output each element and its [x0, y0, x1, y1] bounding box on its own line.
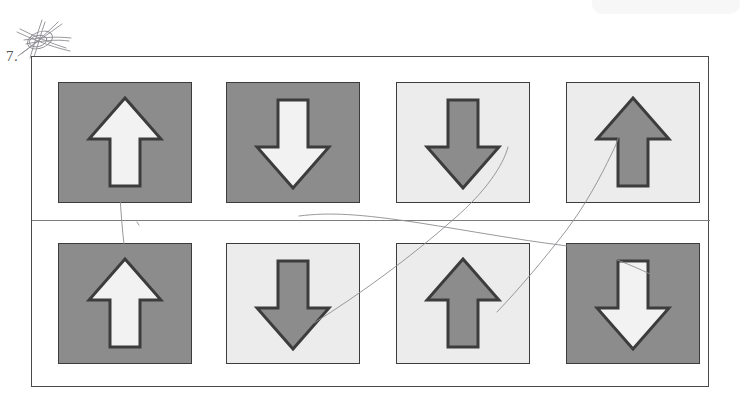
- arrow-cell-8[interactable]: [566, 243, 700, 364]
- figure-number-label: 7.: [6, 48, 18, 65]
- arrow-up-icon: [424, 254, 502, 354]
- arrow-cell-3[interactable]: [396, 82, 530, 203]
- arrow-up-icon: [594, 93, 672, 193]
- arrow-cell-5[interactable]: [58, 243, 192, 364]
- figure-frame: [31, 56, 709, 387]
- arrow-up-icon: [86, 93, 164, 193]
- scan-artifact: [592, 0, 740, 14]
- arrow-cell-7[interactable]: [396, 243, 530, 364]
- arrow-up-icon: [86, 254, 164, 354]
- arrow-cell-6[interactable]: [226, 243, 360, 364]
- arrow-cell-4[interactable]: [566, 82, 700, 203]
- arrow-down-icon: [424, 93, 502, 193]
- figure-page: 7.: [0, 0, 743, 418]
- arrow-down-icon: [254, 254, 332, 354]
- arrow-cell-1[interactable]: [58, 82, 192, 203]
- arrow-cell-2[interactable]: [226, 82, 360, 203]
- arrow-down-icon: [254, 93, 332, 193]
- star-scribble-icon: [14, 18, 76, 60]
- arrow-down-icon: [594, 254, 672, 354]
- arrow-grid: [32, 57, 710, 388]
